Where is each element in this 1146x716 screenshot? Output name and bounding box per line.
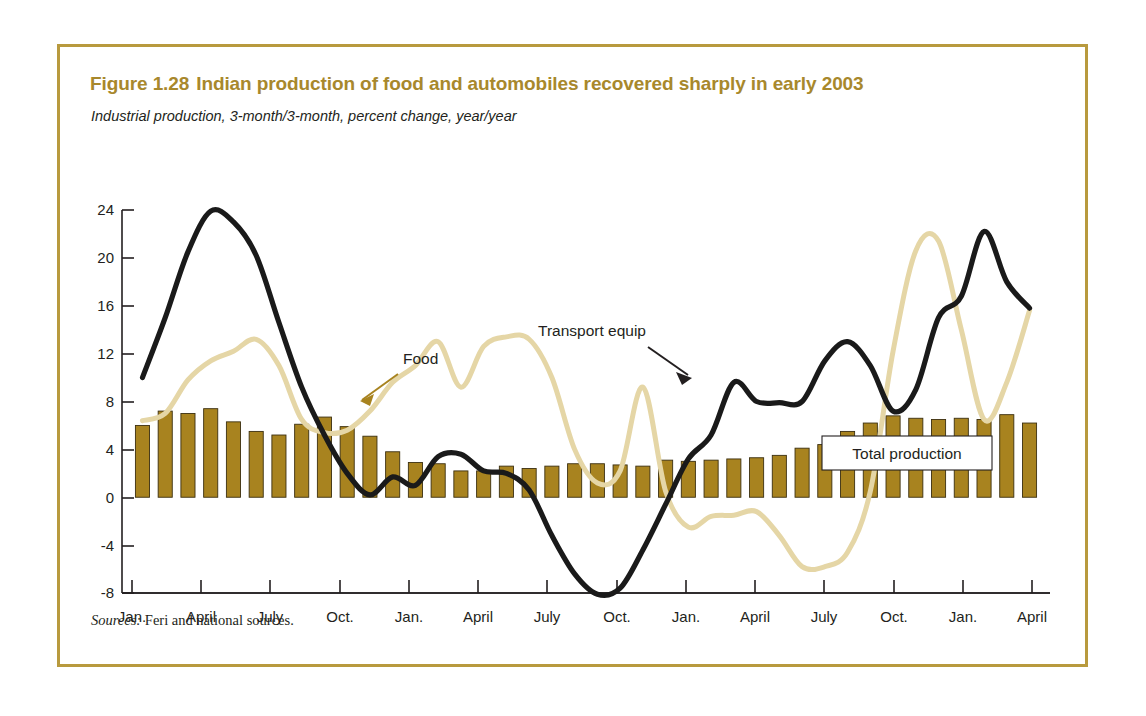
chart-svg: 24 20 16 12 8 4 0 -4 -8 [60, 142, 1085, 627]
y-label-8: 8 [106, 393, 114, 410]
x-label-month-3: Oct. [326, 608, 354, 625]
figure-frame: Figure 1.28Indian production of food and… [57, 44, 1088, 667]
y-label-minus4: -4 [101, 537, 114, 554]
x-label-month-13: April [1017, 608, 1047, 625]
bar [204, 409, 218, 498]
y-label-0: 0 [106, 489, 114, 506]
bar [158, 411, 172, 497]
bar [1000, 415, 1014, 498]
figure-number: Figure 1.28 [90, 73, 189, 94]
bar [249, 431, 263, 497]
bar [545, 466, 559, 497]
legend-total-production: Total production [822, 436, 992, 470]
x-label-month-10: July [811, 608, 838, 625]
bar [135, 425, 149, 497]
bar [181, 413, 195, 497]
y-label-12: 12 [97, 345, 114, 362]
y-label-4: 4 [106, 441, 114, 458]
bar [363, 436, 377, 497]
bar [568, 464, 582, 498]
x-label-month-4: Jan. [395, 608, 423, 625]
bar [772, 455, 786, 497]
figure-subtitle: Industrial production, 3-month/3-month, … [91, 108, 517, 124]
sources-note: Sources: Feri and national sources. [91, 612, 294, 629]
arrow-icon [676, 372, 692, 385]
legend-total-production-label: Total production [852, 445, 961, 462]
figure-title-text: Indian production of food and automobile… [196, 73, 863, 94]
y-label-24: 24 [97, 201, 114, 218]
bar [454, 471, 468, 497]
x-label-month-9: April [740, 608, 770, 625]
x-label-month-5: April [463, 608, 493, 625]
sources-text: Feri and national sources. [145, 612, 294, 628]
sources-label: Sources: [91, 612, 141, 628]
y-tick-labels: 24 20 16 12 8 4 0 -4 -8 [97, 201, 114, 601]
x-label-month-11: Oct. [880, 608, 908, 625]
annotation-transport-leader [648, 347, 688, 375]
page-title: Figure 1.28Indian production of food and… [90, 73, 864, 95]
annotation-food-label: Food [403, 350, 438, 367]
bar [477, 471, 491, 497]
bar [704, 460, 718, 497]
bar [295, 424, 309, 497]
x-label-month-12: Jan. [949, 608, 977, 625]
x-label-month-7: Oct. [603, 608, 631, 625]
x-label-month-8: Jan. [672, 608, 700, 625]
line-series-food [142, 234, 1029, 570]
bar [636, 466, 650, 497]
y-ticks [122, 210, 134, 593]
bar [1022, 423, 1036, 497]
x-label-month-6: July [534, 608, 561, 625]
annotation-transport: Transport equip [538, 322, 692, 385]
line-series-transport-equip [142, 210, 1029, 596]
chart-canvas: 24 20 16 12 8 4 0 -4 -8 [60, 142, 1085, 627]
y-label-16: 16 [97, 297, 114, 314]
bar [795, 448, 809, 497]
bar [226, 422, 240, 497]
annotation-transport-label: Transport equip [538, 322, 646, 339]
y-label-20: 20 [97, 249, 114, 266]
bar [431, 464, 445, 498]
figure-page: Figure 1.28Indian production of food and… [0, 0, 1146, 716]
bar [272, 435, 286, 497]
bar [727, 459, 741, 497]
bar [750, 458, 764, 498]
y-label-minus8: -8 [101, 584, 114, 601]
